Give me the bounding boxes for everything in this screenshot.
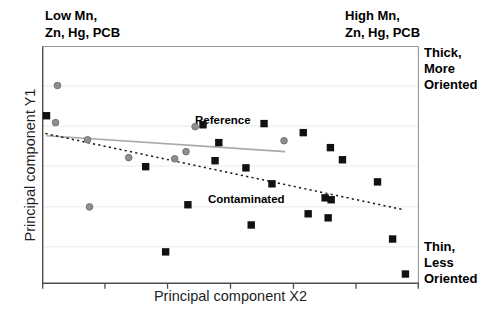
point-contaminated: [268, 180, 275, 187]
point-contaminated: [43, 112, 50, 119]
point-contaminated: [304, 210, 311, 217]
thin-less-oriented-label: Thin, Less Oriented: [424, 239, 477, 287]
point-reference: [281, 137, 288, 144]
point-reference: [86, 204, 93, 211]
figure-canvas: Low Mn, Zn, Hg, PCB High Mn, Zn, Hg, PCB…: [0, 0, 498, 323]
point-contaminated: [339, 156, 346, 163]
point-contaminated: [248, 221, 255, 228]
point-contaminated: [211, 157, 218, 164]
point-contaminated: [402, 270, 409, 277]
point-contaminated: [327, 144, 334, 151]
low-metals-label: Low Mn, Zn, Hg, PCB: [45, 7, 120, 41]
point-reference: [171, 156, 178, 163]
point-reference: [192, 123, 199, 130]
point-contaminated: [374, 178, 381, 185]
point-reference: [183, 148, 190, 155]
point-reference: [54, 82, 61, 89]
point-contaminated: [242, 164, 249, 171]
point-contaminated: [215, 139, 222, 146]
high-metals-label: High Mn, Zn, Hg, PCB: [345, 7, 420, 41]
point-contaminated: [162, 248, 169, 255]
point-contaminated: [142, 163, 149, 170]
point-reference: [84, 136, 91, 143]
trendline-reference: [47, 136, 286, 152]
point-contaminated: [199, 121, 206, 128]
point-contaminated: [324, 214, 331, 221]
point-contaminated: [184, 201, 191, 208]
point-contaminated: [389, 235, 396, 242]
point-reference: [52, 119, 59, 126]
scatter-plot: ReferenceContaminated: [42, 46, 419, 292]
annotation-contaminated: Contaminated: [208, 193, 285, 205]
point-reference: [125, 154, 132, 161]
point-contaminated: [260, 120, 267, 127]
thick-more-oriented-label: Thick, More Oriented: [424, 45, 477, 93]
point-contaminated: [300, 129, 307, 136]
point-contaminated: [327, 196, 334, 203]
y-axis-label: Principal component Y1: [22, 89, 38, 242]
